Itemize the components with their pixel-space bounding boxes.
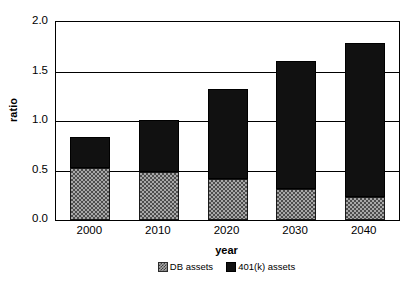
legend-entry: 401(k) assets: [226, 262, 295, 272]
bar-segment-db-assets: [139, 172, 179, 221]
y-tick-label: 0.5: [18, 164, 48, 176]
y-tick-label: 1.5: [18, 65, 48, 77]
x-axis-tick-labels: 20002010202020302040: [55, 224, 398, 240]
bar-segment-db-assets: [70, 168, 110, 220]
bar-segment-401k-assets: [276, 61, 316, 190]
y-tick-label: 1.0: [18, 114, 48, 126]
x-tick-label: 2010: [123, 224, 193, 236]
bar-group: [276, 22, 316, 220]
chart-legend: DB assets401(k) assets: [55, 262, 398, 272]
bar-group: [345, 22, 385, 220]
bar-segment-db-assets: [276, 189, 316, 220]
x-tick-label: 2030: [260, 224, 330, 236]
legend-label: 401(k) assets: [238, 262, 295, 272]
x-tick-label: 2020: [192, 224, 262, 236]
y-tick-label: 0.0: [18, 213, 48, 225]
legend-label: DB assets: [170, 262, 213, 272]
x-axis-title: year: [55, 244, 398, 256]
bar-group: [139, 22, 179, 220]
bar-segment-401k-assets: [139, 120, 179, 171]
x-tick-label: 2000: [54, 224, 124, 236]
legend-entry: DB assets: [158, 262, 213, 272]
bar-segment-db-assets: [345, 197, 385, 220]
bar-segment-db-assets: [208, 179, 248, 220]
bar-group: [70, 22, 110, 220]
bar-segment-401k-assets: [208, 89, 248, 179]
y-tick-label: 2.0: [18, 15, 48, 27]
db-assets-swatch-icon: [158, 262, 168, 272]
y-axis-tick-labels: 0.00.51.01.52.0: [8, 0, 48, 281]
bar-segment-401k-assets: [345, 43, 385, 197]
bar-segment-401k-assets: [70, 137, 110, 168]
plot-inner: [56, 22, 399, 220]
401k-assets-swatch-icon: [226, 262, 236, 272]
plot-area: [55, 21, 400, 221]
chart-figure: ratio 0.00.51.01.52.0 200020102020203020…: [0, 0, 415, 281]
bar-group: [208, 22, 248, 220]
x-tick-label: 2040: [329, 224, 399, 236]
